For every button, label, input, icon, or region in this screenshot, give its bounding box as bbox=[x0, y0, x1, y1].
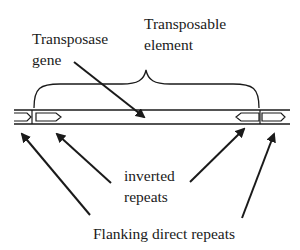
left-inverted-pointer-arrow bbox=[57, 134, 111, 183]
label-transposable-element-1: Transposable bbox=[144, 16, 226, 32]
transposase-pointer-arrow bbox=[74, 62, 144, 117]
left-direct-repeat-arrow bbox=[14, 113, 31, 121]
right-direct-pointer-arrow bbox=[242, 134, 274, 218]
right-inverted-repeat-arrow bbox=[236, 113, 259, 121]
left-direct-pointer-arrow bbox=[22, 134, 90, 215]
left-inverted-repeat-arrow bbox=[36, 113, 61, 121]
label-inverted-repeats-2: repeats bbox=[124, 189, 168, 205]
right-direct-repeat-arrow bbox=[262, 113, 285, 121]
label-transposable-element-2: element bbox=[144, 37, 193, 53]
label-transposase-gene-1: Transposase bbox=[32, 31, 108, 47]
label-flanking-direct-repeats: Flanking direct repeats bbox=[93, 226, 235, 242]
element-brace bbox=[34, 70, 259, 108]
right-inverted-pointer-arrow bbox=[190, 129, 244, 182]
label-inverted-repeats-1: inverted bbox=[124, 168, 175, 184]
label-transposase-gene-2: gene bbox=[32, 52, 61, 68]
